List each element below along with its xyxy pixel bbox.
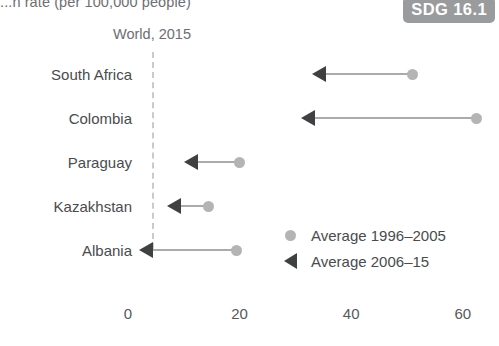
category-label-wrap: Kazakhstan (0, 184, 132, 228)
chart-row: Paraguay (0, 140, 499, 184)
legend-label: Average 1996–2005 (311, 227, 446, 244)
x-axis-tick: 0 (124, 305, 132, 322)
x-axis: 0204060 (0, 305, 499, 335)
category-label-wrap: South Africa (0, 52, 132, 96)
category-label: Paraguay (68, 154, 132, 171)
change-connector (194, 162, 240, 163)
circle-marker-icon (234, 157, 245, 168)
circle-marker-icon (231, 245, 242, 256)
homicide-rate-arrow-chart: ...n rate (per 100,000 people) SDG 16.1 … (0, 0, 499, 346)
category-label-wrap: Colombia (0, 96, 132, 140)
x-axis-tick: 40 (343, 305, 360, 322)
circle-marker-icon (278, 230, 302, 241)
left-arrow-marker-icon (139, 242, 153, 258)
reference-line-label: World, 2015 (113, 26, 191, 42)
left-arrow-marker-icon (184, 154, 198, 170)
left-arrow-marker-icon (301, 110, 315, 126)
category-label-wrap: Albania (0, 228, 132, 272)
circle-marker-icon (471, 113, 482, 124)
legend-label: Average 2006–15 (311, 253, 429, 270)
legend-item-average-2006-15[interactable]: Average 2006–15 (278, 248, 446, 274)
left-arrow-marker-icon (278, 253, 302, 269)
category-label: Albania (82, 242, 132, 259)
left-arrow-marker-icon (312, 66, 326, 82)
chart-row: South Africa (0, 52, 499, 96)
chart-axis-title: ...n rate (per 100,000 people) (0, 0, 191, 10)
x-axis-tick: 20 (231, 305, 248, 322)
circle-marker-icon (203, 201, 214, 212)
change-connector (311, 118, 477, 119)
category-label: Kazakhstan (54, 198, 132, 215)
chart-row: Colombia (0, 96, 499, 140)
chart-legend: Average 1996–2005 Average 2006–15 (278, 222, 446, 274)
change-connector (322, 74, 412, 75)
x-axis-tick: 60 (454, 305, 471, 322)
category-label: Colombia (69, 110, 132, 127)
category-label: South Africa (51, 66, 132, 83)
category-label-wrap: Paraguay (0, 140, 132, 184)
legend-item-average-1996-2005[interactable]: Average 1996–2005 (278, 222, 446, 248)
sdg-badge: SDG 16.1 (403, 0, 495, 23)
left-arrow-marker-icon (167, 198, 181, 214)
circle-marker-icon (407, 69, 418, 80)
change-connector (149, 250, 237, 251)
